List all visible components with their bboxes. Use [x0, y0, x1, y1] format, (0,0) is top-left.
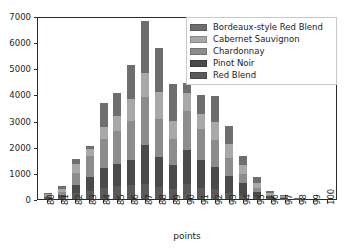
x-axis-label: points: [37, 231, 337, 241]
bar-slot: [111, 18, 125, 199]
x-axis-tick: 88: [152, 200, 166, 230]
bar-segment: [183, 111, 191, 150]
x-axis-tick: 86: [124, 200, 138, 230]
bar-segment: [169, 165, 177, 189]
bar-segment: [225, 144, 233, 158]
bar-segment: [197, 160, 205, 188]
stacked-bar[interactable]: [86, 146, 94, 199]
x-axis-tick: 90: [180, 200, 194, 230]
bar-segment: [127, 99, 135, 120]
bar-segment: [239, 165, 247, 174]
y-axis-tick-label: 6000: [9, 39, 31, 48]
x-axis-tick: 100: [320, 200, 334, 230]
stacked-bar[interactable]: [100, 103, 108, 199]
bar-slot: [166, 18, 180, 199]
bar-segment: [225, 176, 233, 193]
legend-item[interactable]: Bordeaux-style Red Blend: [190, 21, 332, 33]
bar-slot: [69, 18, 83, 199]
x-axis-tick: 96: [264, 200, 278, 230]
legend-label: Bordeaux-style Red Blend: [213, 23, 323, 32]
bar-segment: [113, 116, 121, 131]
x-axis-tick-label: 100: [327, 189, 336, 205]
stacked-bar[interactable]: [72, 159, 80, 200]
x-axis-tick: 98: [292, 200, 306, 230]
bar-segment: [211, 167, 219, 189]
y-axis-tick-label: 0: [26, 196, 31, 205]
chart-figure: 01000200030004000500060007000 8081828384…: [0, 0, 349, 248]
x-axis-tick: 91: [194, 200, 208, 230]
bar-slot: [55, 18, 69, 199]
bar-segment: [183, 150, 191, 185]
stacked-bar[interactable]: [113, 93, 121, 199]
y-axis-tick-label: 7000: [9, 13, 31, 22]
stacked-bar[interactable]: [197, 95, 205, 199]
legend-item[interactable]: Cabernet Sauvignon: [190, 33, 332, 45]
bar-segment: [100, 103, 108, 126]
bar-segment: [141, 73, 149, 98]
stacked-bar[interactable]: [155, 48, 163, 199]
bar-segment: [197, 95, 205, 114]
stacked-bar[interactable]: [225, 126, 233, 199]
bar-slot: [83, 18, 97, 199]
bar-segment: [239, 174, 247, 184]
chart-legend: Bordeaux-style Red BlendCabernet Sauvign…: [186, 17, 337, 85]
y-axis-tick-label: 3000: [9, 117, 31, 126]
y-axis: 01000200030004000500060007000: [0, 17, 37, 200]
x-axis-tick: 89: [166, 200, 180, 230]
legend-swatch: [190, 24, 207, 31]
bar-slot: [124, 18, 138, 199]
bar-segment: [100, 127, 108, 139]
bar-segment: [141, 21, 149, 73]
legend-swatch: [190, 72, 207, 79]
x-axis-tick: 95: [250, 200, 264, 230]
bar-segment: [211, 96, 219, 123]
stacked-bar[interactable]: [127, 65, 135, 199]
x-axis-tick: 87: [138, 200, 152, 230]
bar-segment: [155, 92, 163, 119]
legend-label: Red Blend: [213, 71, 256, 80]
bar-segment: [72, 185, 80, 192]
bar-segment: [225, 158, 233, 176]
x-axis-tick: 85: [110, 200, 124, 230]
x-axis-tick: 94: [236, 200, 250, 230]
legend-item[interactable]: Red Blend: [190, 69, 332, 81]
bar-segment: [113, 93, 121, 116]
legend-label: Cabernet Sauvignon: [213, 35, 300, 44]
bar-segment: [155, 157, 163, 187]
x-axis-tick: 97: [278, 200, 292, 230]
x-axis-tick: 83: [82, 200, 96, 230]
y-axis-tick-label: 1000: [9, 170, 31, 179]
bar-segment: [183, 93, 191, 111]
bar-segment: [113, 131, 121, 164]
x-axis-tick: 84: [96, 200, 110, 230]
bar-segment: [211, 122, 219, 140]
stacked-bar[interactable]: [211, 96, 219, 199]
y-axis-tick-label: 4000: [9, 91, 31, 100]
bar-segment: [211, 140, 219, 167]
stacked-bar[interactable]: [169, 84, 177, 199]
bar-segment: [72, 173, 80, 186]
bar-segment: [127, 121, 135, 160]
bar-segment: [141, 97, 149, 145]
bar-segment: [169, 139, 177, 164]
legend-item[interactable]: Chardonnay: [190, 45, 332, 57]
stacked-bar[interactable]: [141, 21, 149, 199]
y-axis-tick-label: 2000: [9, 143, 31, 152]
bar-segment: [100, 168, 108, 187]
bar-slot: [152, 18, 166, 199]
legend-label: Chardonnay: [213, 47, 265, 56]
bar-slot: [97, 18, 111, 199]
bar-segment: [127, 160, 135, 186]
stacked-bar[interactable]: [183, 83, 191, 199]
bar-segment: [141, 145, 149, 185]
bar-segment: [155, 48, 163, 92]
legend-swatch: [190, 48, 207, 55]
x-axis: 8081828384858687888990919293949596979899…: [37, 200, 337, 230]
legend-item[interactable]: Pinot Noir: [190, 57, 332, 69]
x-axis-tick: 80: [40, 200, 54, 230]
x-axis-tick: 93: [222, 200, 236, 230]
bar-slot: [41, 18, 55, 199]
stacked-bar[interactable]: [239, 156, 247, 199]
bar-segment: [225, 126, 233, 143]
x-axis-tick: 92: [208, 200, 222, 230]
